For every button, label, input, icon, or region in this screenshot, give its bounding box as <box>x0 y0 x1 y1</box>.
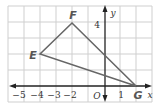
y-axis-down-arrow-icon <box>103 95 108 102</box>
x-axis-right-arrow-icon <box>145 84 152 89</box>
coordinate-plane-figure: −5 −4 −3 −2 1 4 O x y F E G <box>0 0 165 109</box>
x-axis-left-arrow-icon <box>9 84 16 89</box>
y-axis-label: y <box>109 8 116 18</box>
x-tick-label: −2 <box>63 90 76 100</box>
x-axis-label: x <box>147 90 152 100</box>
origin-label: O <box>93 91 101 101</box>
vertex-label-e: E <box>29 49 37 62</box>
vertex-label-g: G <box>133 89 142 102</box>
x-tick-label: −5 <box>12 90 26 100</box>
x-tick-label: −4 <box>30 90 44 100</box>
vertex-label-f: F <box>69 9 77 22</box>
y-tick-label: 4 <box>94 20 100 30</box>
x-tick-label: 1 <box>118 90 124 100</box>
x-tick-label: −3 <box>47 90 61 100</box>
coordinate-plane: −5 −4 −3 −2 1 4 O x y F E G <box>0 0 165 109</box>
